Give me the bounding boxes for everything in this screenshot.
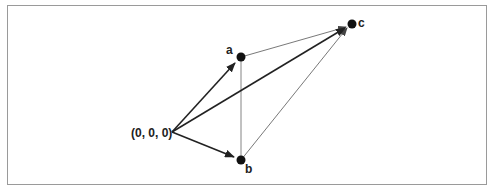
point-c <box>348 20 357 29</box>
vector-origin-to-c <box>172 28 345 132</box>
label-a: a <box>226 43 233 57</box>
label-c: c <box>358 16 365 30</box>
label-b: b <box>245 162 252 176</box>
vector-b-to-c <box>241 28 347 160</box>
label-origin: (0, 0, 0) <box>131 126 172 140</box>
vector-diagram: (0, 0, 0) a b c <box>0 0 494 192</box>
vector-a-to-c <box>241 27 346 57</box>
vector-origin-to-a <box>172 63 235 132</box>
point-a <box>237 53 246 62</box>
vector-origin-to-b <box>172 132 234 157</box>
